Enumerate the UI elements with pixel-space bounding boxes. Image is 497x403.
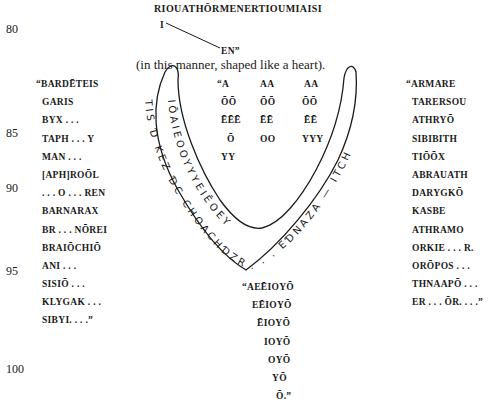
bottom-line: IOYŌ (0, 333, 497, 351)
grid-cell: ŌŌ (302, 93, 323, 111)
right-line: ORKIE . . . R. (406, 239, 483, 257)
grid-cell: AA (260, 75, 275, 93)
right-line: ABRAUATH (406, 166, 483, 184)
center-grid-col3: AA ŌŌ ĒĒ YYY (302, 75, 323, 148)
grid-cell: Ō (217, 130, 241, 148)
right-column: “ARMARE TARERSOU ATHRYŌ SIBIBITH TIŌŌX A… (406, 75, 483, 311)
center-grid-col1: “A ŌŌ ĒĒĒ Ō YY (217, 75, 241, 166)
bottom-line: EĒIOYŌ (0, 296, 497, 314)
bottom-line: ĒIOYŌ (0, 314, 497, 332)
diagonal-line (166, 23, 220, 48)
grid-cell: AA (302, 75, 323, 93)
grid-cell: OO (260, 130, 275, 148)
left-line: [APH]ROŌL (36, 166, 107, 184)
center-grid-col2: AA ŌŌ ĒĒ OO (260, 75, 275, 148)
grid-cell: ĒĒĒ (217, 111, 241, 129)
left-line: BYX . . . (36, 111, 107, 129)
left-line: BRAIŌCHIŌ (36, 239, 107, 257)
left-line: MAN . . . (36, 148, 107, 166)
bottom-line: Ō.” (0, 387, 497, 403)
left-line: BARNARAX (36, 202, 107, 220)
left-line: BR . . . NŌREI (36, 221, 107, 239)
right-line: KASBE (406, 202, 483, 220)
left-line: . . . O . . . REN (36, 184, 107, 202)
grid-cell: ĒĒ (260, 111, 275, 129)
right-line: TIŌŌX (406, 148, 483, 166)
grid-cell: “A (217, 75, 241, 93)
grid-cell: ĒĒ (302, 111, 323, 129)
grid-cell: ŌŌ (260, 93, 275, 111)
left-line: TAPH . . . Y (36, 130, 107, 148)
right-line: TARERSOU (406, 93, 483, 111)
bottom-line: OYŌ (0, 351, 497, 369)
left-line: ANI . . . (36, 257, 107, 275)
right-line: “ARMARE (406, 75, 483, 93)
grid-cell: YY (217, 148, 241, 166)
right-line: ATHRAMO (406, 221, 483, 239)
bottom-line: “AEĒIOYŌ (0, 278, 497, 296)
right-line: ATHRYŌ (406, 111, 483, 129)
bottom-column: “AEĒIOYŌ EĒIOYŌ ĒIOYŌ IOYŌ OYŌ YŌ Ō.” (0, 278, 497, 403)
right-line: DARYGKŌ (406, 184, 483, 202)
left-line: “BARDĒTEIS (36, 75, 107, 93)
right-line: ORŌPOS . . . (406, 257, 483, 275)
grid-cell: ŌŌ (217, 93, 241, 111)
grid-cell: YYY (302, 130, 323, 148)
bottom-line: YŌ (0, 369, 497, 387)
left-line: GARIS (36, 93, 107, 111)
right-line: SIBIBITH (406, 130, 483, 148)
